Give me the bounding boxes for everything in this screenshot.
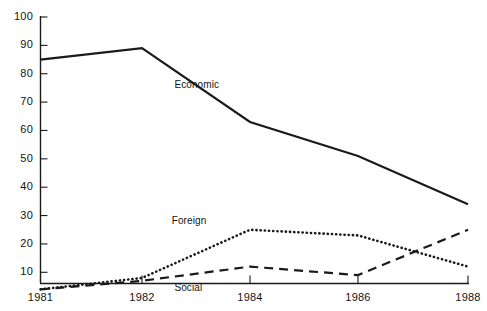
y-axis-tick-label: 20: [0, 238, 33, 249]
series-line-social: [41, 230, 469, 290]
series-line-economic: [41, 48, 469, 204]
y-axis-tick-label: 90: [0, 39, 33, 50]
y-axis-tick-label: 70: [0, 96, 33, 107]
series-label-foreign: Foreign: [172, 216, 207, 226]
y-axis-tick-label: 10: [0, 266, 33, 277]
series-line-foreign: [41, 230, 469, 290]
y-axis-tick-label: 40: [0, 181, 33, 192]
x-axis-tick-label: 1984: [225, 292, 275, 303]
series-label-economic: Economic: [174, 80, 219, 90]
y-axis-ticks: [41, 17, 48, 272]
x-axis-tick-label: 1986: [333, 292, 383, 303]
y-axis-tick-label: 60: [0, 124, 33, 135]
x-axis-tick-label: 1982: [117, 292, 167, 303]
line-chart: 102030405060708090100 198119821984198619…: [0, 0, 487, 311]
y-axis-tick-label: 100: [0, 11, 33, 22]
y-axis-tick-label: 30: [0, 210, 33, 221]
chart-plot-area: [0, 0, 487, 311]
x-axis-tick-label: 1988: [443, 292, 487, 303]
chart-series-group: [41, 48, 469, 289]
chart-axes: [40, 16, 469, 284]
y-axis-tick-label: 80: [0, 68, 33, 79]
series-label-social: Social: [174, 283, 202, 293]
x-axis-tick-label: 1981: [16, 292, 66, 303]
x-axis-ticks: [41, 276, 469, 284]
y-axis-tick-label: 50: [0, 153, 33, 164]
